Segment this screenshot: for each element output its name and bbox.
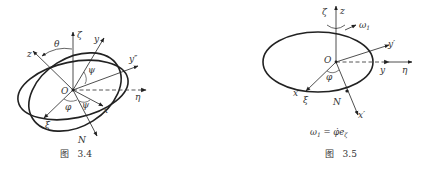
x-prime-axis	[336, 62, 358, 115]
label-y-prime: y′	[387, 39, 395, 49]
label-x: x	[293, 88, 298, 98]
label-N: N	[332, 97, 342, 107]
label-x-prime: x′	[358, 110, 365, 120]
phi-arc	[64, 99, 77, 101]
label-eta: η	[402, 65, 408, 75]
label-psi-upper: ψ	[88, 65, 96, 75]
label-N: N	[77, 135, 87, 145]
theta-arc	[42, 48, 72, 56]
formula-rhs-sub: ζ	[344, 131, 348, 139]
label-theta: θ	[54, 39, 60, 49]
label-xi: ξ	[45, 120, 51, 130]
label-z: z	[339, 6, 345, 16]
formula-rhs: φ̇e	[333, 127, 344, 137]
y-axis	[73, 38, 104, 90]
orbit-ellipse-body-plane	[15, 37, 136, 148]
psi-arc-upper	[84, 72, 86, 84]
label-z: z	[26, 49, 32, 59]
omega1-arrow	[345, 25, 356, 30]
z-axis	[33, 51, 73, 90]
y-prime-axis	[336, 45, 389, 62]
label-psi-lower: ψ	[82, 100, 90, 110]
caption-fig-3-5: 图 3.5	[325, 149, 357, 159]
label-y: y	[379, 65, 386, 75]
omega1-subscript: 1	[366, 24, 370, 31]
label-eta: η	[135, 92, 141, 102]
label-omega1: ω1	[359, 20, 370, 31]
figure-3-4: ζ z θ y y″ ψ O η φ ψ x ξ N 图 3.4	[12, 30, 146, 159]
figure-canvas: ζ z θ y y″ ψ O η φ ψ x ξ N 图 3.4	[0, 0, 424, 177]
label-zeta: ζ	[77, 30, 83, 40]
label-phi: φ	[65, 102, 72, 112]
formula-omega1: ω1 = φ̇eζ	[310, 127, 348, 139]
label-x: x	[103, 105, 108, 115]
label-xi: ξ	[303, 95, 309, 105]
origin-point	[335, 61, 338, 64]
origin-point	[72, 89, 75, 92]
formula-lhs: ω	[310, 127, 317, 137]
node-point-N	[345, 89, 348, 92]
label-y-double-prime: y″	[128, 54, 138, 64]
label-zeta: ζ	[322, 7, 328, 17]
label-y: y	[93, 34, 100, 44]
formula-equals: =	[321, 127, 334, 137]
caption-fig-3-4: 图 3.4	[60, 149, 92, 159]
figure-3-5: ζ z ω1 y′ O y η φ x ξ N x′ ω1 = φ̇eζ 图 3…	[263, 6, 412, 159]
label-origin: O	[61, 86, 69, 96]
label-phi: φ	[326, 72, 333, 82]
label-origin: O	[324, 55, 332, 65]
